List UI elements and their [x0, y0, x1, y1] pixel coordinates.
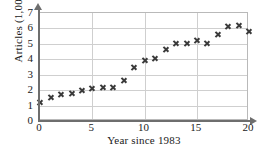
data-point-marker: [120, 77, 127, 84]
x-axis-title: Year since 1983: [38, 134, 250, 146]
y-tick-label: 1: [17, 100, 33, 111]
data-point-marker: [162, 46, 169, 53]
data-point-marker: [214, 31, 221, 38]
data-point-marker: [204, 40, 211, 47]
gridline-vertical: [145, 13, 146, 119]
data-point-marker: [110, 84, 117, 91]
gridline-horizontal: [40, 28, 247, 29]
x-tick-label: 15: [184, 122, 208, 133]
data-point-marker: [131, 64, 138, 71]
scatter-plot-figure: Articles (1,000) 01234567 05101520 Year …: [0, 0, 263, 153]
y-tick-label: 4: [17, 53, 33, 64]
data-point-marker: [235, 22, 242, 29]
y-tick-label: 3: [17, 69, 33, 80]
data-point-marker: [68, 90, 75, 97]
plot-area: [39, 12, 248, 120]
x-tick-label: 0: [27, 122, 51, 133]
data-point-marker: [78, 87, 85, 94]
data-point-marker: [47, 94, 54, 101]
x-tick-label: 20: [236, 122, 260, 133]
data-point-marker: [246, 28, 253, 35]
data-point-marker: [99, 84, 106, 91]
y-tick-label: 5: [17, 38, 33, 49]
x-tick-label: 5: [79, 122, 103, 133]
gridline-horizontal: [40, 75, 247, 76]
gridline-vertical: [197, 13, 198, 119]
data-point-marker: [225, 23, 232, 30]
data-point-marker: [57, 91, 64, 98]
x-tick-label: 10: [132, 122, 156, 133]
gridline-horizontal: [40, 44, 247, 45]
y-tick-label: 7: [17, 7, 33, 18]
gridline-vertical: [92, 13, 93, 119]
data-point-marker: [193, 37, 200, 44]
data-point-marker: [151, 55, 158, 62]
data-point-marker: [141, 57, 148, 64]
data-point-marker: [183, 40, 190, 47]
data-point-marker: [89, 85, 96, 92]
data-point-marker: [172, 40, 179, 47]
y-tick-label: 6: [17, 22, 33, 33]
y-axis-arrow-icon: [34, 3, 42, 10]
y-tick-label: 2: [17, 84, 33, 95]
gridline-horizontal: [40, 106, 247, 107]
y-axis-line: [38, 9, 40, 122]
